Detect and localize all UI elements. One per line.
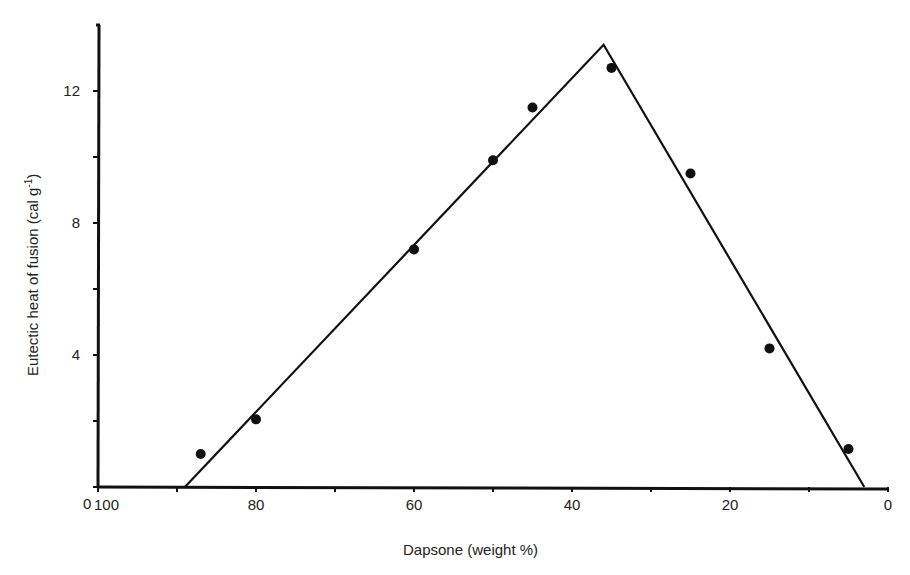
x-axis-title: Dapsone (weight %): [403, 541, 538, 558]
axes: [93, 25, 888, 492]
fit-line: [185, 45, 864, 487]
data-point: [607, 63, 617, 73]
data-point: [409, 244, 419, 254]
data-point: [686, 169, 696, 179]
data-point: [528, 103, 538, 113]
data-point: [196, 449, 206, 459]
data-points: [196, 63, 854, 459]
y-axis-title-close: ): [24, 174, 41, 179]
y-axis-title: Eutectic heat of fusion (cal g-1): [23, 174, 41, 376]
x-tick-label: 60: [406, 496, 423, 513]
y-axis-title-main: Eutectic heat of fusion (cal g: [24, 188, 41, 376]
y-tick-label: 8: [72, 214, 80, 231]
tick-labels: 1008060402004812: [63, 82, 892, 513]
x-tick-label: 80: [248, 496, 265, 513]
data-point: [844, 444, 854, 454]
data-point: [251, 414, 261, 424]
x-tick-label: 20: [722, 496, 739, 513]
y-tick-label: 4: [72, 346, 80, 363]
fit-lines: [185, 45, 864, 487]
data-point: [765, 343, 775, 353]
y-axis-line: [98, 25, 99, 487]
x-tick-label: 40: [564, 496, 581, 513]
eutectic-heat-chart: 1008060402004812 0 Dapsone (weight %) Eu…: [0, 0, 910, 575]
y-tick-label: 12: [63, 82, 80, 99]
x-tick-label: 100: [94, 496, 119, 513]
data-point: [488, 155, 498, 165]
x-tick-label: 0: [884, 496, 892, 513]
origin-label: 0: [83, 495, 91, 512]
